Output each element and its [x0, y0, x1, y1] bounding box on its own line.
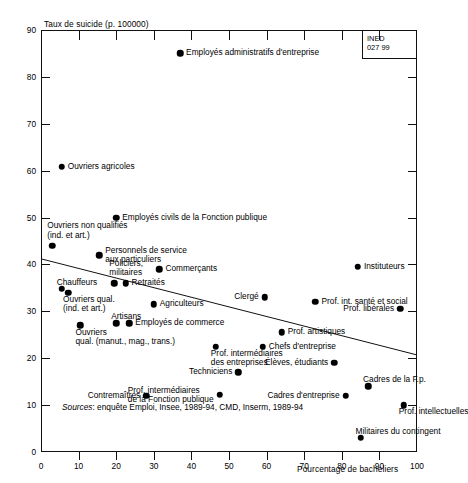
data-point-label: Chauffeurs	[57, 278, 97, 287]
data-point	[216, 392, 223, 399]
data-point-label: Clergé	[234, 293, 258, 302]
y-tick-mark	[41, 405, 50, 406]
data-point	[58, 164, 65, 171]
x-tick-mark	[304, 452, 305, 460]
y-tick-label: 40	[14, 259, 36, 269]
x-tick-label: 60	[256, 461, 278, 471]
y-tick-mark	[41, 77, 50, 78]
x-tick-mark	[379, 452, 380, 460]
plot-area	[41, 30, 417, 452]
y-tick-mark	[41, 171, 50, 172]
y-tick-mark	[408, 311, 417, 312]
y-axis-title: Taux de suicide (p. 100000)	[44, 19, 149, 29]
data-point-label: Militaires du contingent	[356, 427, 441, 436]
data-point	[156, 266, 163, 273]
ined-box-divider	[362, 31, 363, 58]
data-point-label: Ouvriers qual. (manut., mag., trans.)	[75, 328, 175, 346]
data-point-label: Ouvriers agricoles	[68, 162, 135, 171]
data-point-label: Élèves, étudiants	[265, 358, 328, 367]
y-tick-label: 60	[14, 166, 36, 176]
x-tick-mark-top	[229, 31, 230, 40]
data-point	[235, 369, 242, 376]
y-tick-mark	[41, 264, 50, 265]
y-tick-label: 70	[14, 119, 36, 129]
x-tick-label: 90	[368, 461, 390, 471]
data-point	[49, 242, 56, 249]
data-point	[96, 252, 103, 259]
x-tick-mark-top	[191, 31, 192, 40]
ined-stamp: INED 027 99	[367, 35, 390, 52]
ined-box-underline	[362, 58, 417, 59]
data-point	[143, 392, 150, 399]
y-tick-label: 50	[14, 213, 36, 223]
data-point-label: Ouvriers qual. (ind. et art.)	[63, 295, 115, 313]
data-point-label: Employés de commerce	[135, 318, 224, 327]
data-point	[331, 360, 338, 367]
data-point	[342, 392, 349, 399]
x-tick-mark	[342, 452, 343, 460]
data-point-label: Agriculteurs	[160, 300, 204, 309]
x-tick-mark-top	[79, 31, 80, 40]
data-point	[126, 320, 133, 327]
data-point-label: Contremaîtres	[88, 391, 141, 400]
x-tick-label: 50	[218, 461, 240, 471]
y-tick-mark	[41, 311, 50, 312]
x-tick-mark	[154, 452, 155, 460]
data-point	[177, 50, 184, 57]
x-tick-label: 80	[331, 461, 353, 471]
data-point-label: Prof. libérales	[343, 304, 394, 313]
y-tick-mark	[41, 358, 50, 359]
data-point	[312, 299, 319, 306]
y-tick-label: 80	[14, 72, 36, 82]
data-point-label: Commerçants	[165, 265, 217, 274]
y-tick-mark	[408, 77, 417, 78]
y-tick-mark	[408, 124, 417, 125]
x-tick-mark-top	[267, 31, 268, 40]
data-point-label: Retraités	[132, 279, 165, 288]
y-tick-mark	[41, 124, 50, 125]
y-tick-mark	[41, 218, 50, 219]
x-tick-mark-top	[154, 31, 155, 40]
y-tick-mark	[408, 218, 417, 219]
data-point	[397, 306, 404, 313]
x-tick-label: 70	[293, 461, 315, 471]
x-tick-label: 20	[105, 461, 127, 471]
x-tick-label: 100	[406, 461, 428, 471]
source-note: Sources: enquête Emploi, Insee, 1989-94,…	[62, 402, 303, 412]
x-tick-label: 0	[30, 461, 52, 471]
y-tick-mark	[408, 171, 417, 172]
data-point-label: Instituteurs	[364, 262, 405, 271]
y-tick-mark	[408, 264, 417, 265]
y-tick-label: 20	[14, 353, 36, 363]
data-point-label: Techniciens	[189, 368, 232, 377]
data-point-label: Employés civils de la Fonction publique	[122, 213, 267, 222]
source-text: : enquête Emploi, Insee, 1989-94, CMD, I…	[92, 402, 303, 412]
data-point-label: Chefs d'entreprise	[269, 342, 336, 351]
x-tick-mark	[79, 452, 80, 460]
x-tick-mark	[116, 452, 117, 460]
x-tick-mark	[191, 452, 192, 460]
x-tick-label: 30	[143, 461, 165, 471]
x-tick-mark-top	[342, 31, 343, 40]
data-point-label: Employés administratifs d'entreprise	[186, 49, 319, 58]
data-point-label: Cadres de la F.p.	[363, 376, 426, 385]
data-point-label: Policiers, militaires	[109, 259, 143, 277]
data-point	[278, 329, 285, 336]
x-tick-mark	[267, 452, 268, 460]
data-point-label: Cadres d'entreprise	[267, 391, 339, 400]
data-point	[111, 280, 118, 287]
source-label: Sources	[62, 402, 92, 412]
data-point-label: Prof. intellectuelles	[399, 408, 468, 417]
data-point-label: Ouvriers non qualifiés (ind. et art.)	[47, 221, 127, 239]
x-tick-mark	[229, 452, 230, 460]
x-tick-label: 10	[68, 461, 90, 471]
y-tick-label: 10	[14, 400, 36, 410]
y-tick-label: 90	[14, 25, 36, 35]
data-point	[261, 294, 268, 301]
x-tick-mark-top	[116, 31, 117, 40]
data-point-label: Prof. artistiques	[288, 328, 346, 337]
y-tick-mark	[408, 358, 417, 359]
x-tick-label: 40	[180, 461, 202, 471]
y-tick-label: 0	[14, 447, 36, 457]
